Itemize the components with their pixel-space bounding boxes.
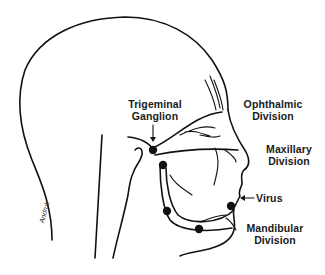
- label-virus: Virus: [256, 192, 283, 204]
- label-mandibular-division: Mandibular Division: [240, 222, 310, 246]
- neck-front: [95, 135, 102, 258]
- label-line: Maxillary: [258, 143, 320, 155]
- label-trigeminal-ganglion: Trigeminal Ganglion: [122, 98, 188, 122]
- maxillary-fibers: [214, 148, 236, 185]
- brow-lines: [205, 76, 223, 110]
- nerve-dot-lip: [227, 202, 235, 210]
- nerve-dot-upper: [159, 161, 167, 169]
- label-line: Division: [258, 155, 320, 167]
- label-line: Ganglion: [122, 110, 188, 122]
- nerve-dot-mandible: [195, 225, 203, 233]
- label-ophthalmic-division: Ophthalmic Division: [238, 98, 308, 122]
- jaw-line: [113, 148, 142, 258]
- label-maxillary-division: Maxillary Division: [258, 143, 320, 167]
- ganglion-arrowhead: [150, 137, 156, 142]
- nerve-dot-lower: [163, 207, 171, 215]
- trigeminal-ganglion-dot: [149, 146, 157, 154]
- mandibular-branch-inner: [166, 168, 234, 222]
- label-line: Division: [240, 234, 310, 246]
- label-line: Division: [238, 110, 308, 122]
- ophthalmic-fibers: [180, 127, 220, 137]
- mandibular-branch-outer: [160, 165, 232, 230]
- label-line: Mandibular: [240, 222, 310, 234]
- label-line: Ophthalmic: [238, 98, 308, 110]
- label-line: Trigeminal: [122, 98, 188, 110]
